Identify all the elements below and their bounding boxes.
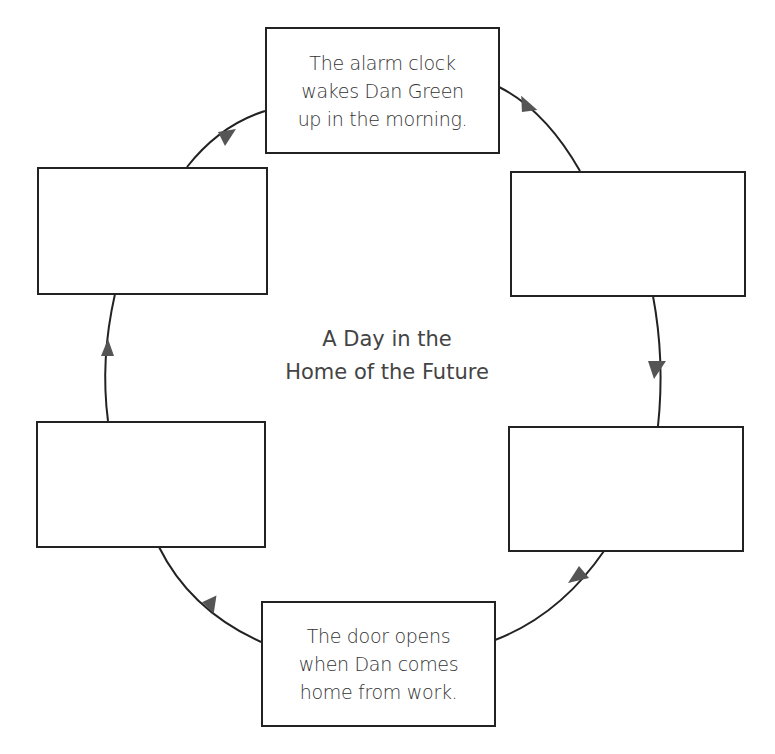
step-box-top: The alarm clock wakes Dan Green up in th… (265, 27, 500, 154)
diagram-title-line2: Home of the Future (237, 356, 537, 389)
cycle-diagram: The alarm clock wakes Dan Green up in th… (0, 0, 775, 754)
step-box-bottom-right[interactable] (508, 426, 744, 552)
connector-top-to-topright (499, 87, 580, 171)
arrow-icon (648, 361, 666, 379)
arrow-icon (568, 566, 589, 583)
step-box-bottom-left[interactable] (36, 421, 266, 548)
step-box-top-right[interactable] (510, 171, 746, 297)
arrow-icon (519, 96, 539, 114)
connector-bottom-to-bottomleft (159, 547, 261, 642)
step-text-top: The alarm clock wakes Dan Green up in th… (298, 49, 468, 133)
step-text-bottom: The door opens when Dan comes home from … (299, 622, 459, 706)
diagram-title-line1: A Day in the (237, 323, 537, 356)
step-box-bottom: The door opens when Dan comes home from … (261, 601, 496, 727)
arrow-icon (218, 129, 236, 146)
connector-bottomleft-to-topleft (105, 294, 115, 421)
arrow-icon (101, 339, 114, 356)
diagram-title: A Day in the Home of the Future (237, 323, 537, 389)
connector-bottomright-to-bottom (495, 551, 604, 640)
step-box-top-left[interactable] (37, 167, 268, 295)
